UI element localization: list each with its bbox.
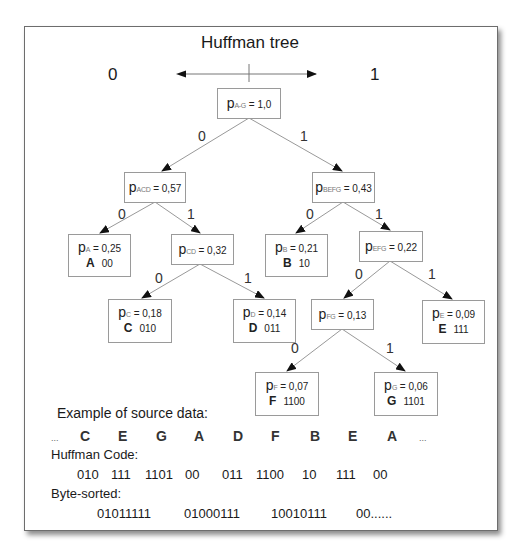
node-g: pG = 0,06 G1101 xyxy=(374,372,438,416)
edge-label-efg-0: 0 xyxy=(355,266,363,282)
example-label: Example of source data: xyxy=(57,405,208,421)
direction-right-label: 1 xyxy=(370,65,379,85)
node-fg: pFG = 0,13 xyxy=(311,299,374,330)
code-value: 1101 xyxy=(145,467,173,482)
byte-sorted-label: Byte-sorted: xyxy=(51,486,121,501)
edge-label-root-0: 0 xyxy=(198,128,206,144)
sequence-ellipsis-start: ... xyxy=(51,433,59,443)
edge-label-acd-0: 0 xyxy=(118,206,126,222)
node-acd: pACD = 0,57 xyxy=(124,172,186,203)
sequence-symbol: E xyxy=(348,428,357,444)
edge-label-befg-1: 1 xyxy=(375,206,383,222)
edge-label-root-1: 1 xyxy=(300,128,308,144)
node-efg: pEFG = 0,22 xyxy=(359,231,423,262)
node-befg: pBEFG = 0,43 xyxy=(312,172,375,203)
sequence-symbol: B xyxy=(310,428,320,444)
byte-value: 00...... xyxy=(356,506,392,521)
sequence-symbol: E xyxy=(118,428,127,444)
sequence-symbol: D xyxy=(233,428,243,444)
code-value: 10 xyxy=(302,467,316,482)
sequence-symbol: F xyxy=(271,428,280,444)
byte-value: 10010111 xyxy=(271,506,327,521)
byte-value: 01000111 xyxy=(184,506,240,521)
code-value: 010 xyxy=(77,467,99,482)
edge-label-fg-0: 0 xyxy=(291,340,299,356)
code-value: 111 xyxy=(111,467,131,482)
diagram-title: Huffman tree xyxy=(0,33,526,53)
code-value: 111 xyxy=(336,467,356,482)
node-e: pE = 0,09 E111 xyxy=(422,300,485,344)
edge-label-efg-1: 1 xyxy=(428,266,436,282)
node-root: pA-G = 1,0 xyxy=(217,88,281,119)
node-d: pD = 0,14 D011 xyxy=(233,299,296,343)
direction-left-label: 0 xyxy=(108,65,117,85)
node-a: pA = 0,25 A00 xyxy=(68,234,131,277)
node-cd: pCD = 0,32 xyxy=(171,234,234,265)
huffman-code-label: Huffman Code: xyxy=(51,447,138,462)
code-value: 1100 xyxy=(256,467,284,482)
code-value: 00 xyxy=(185,467,199,482)
code-value: 00 xyxy=(373,467,387,482)
sequence-ellipsis-end: ... xyxy=(419,433,427,443)
sequence-symbol: C xyxy=(80,428,90,444)
edge-label-befg-0: 0 xyxy=(306,206,314,222)
sequence-symbol: G xyxy=(156,428,167,444)
code-value: 011 xyxy=(222,467,243,482)
edge-label-cd-1: 1 xyxy=(244,270,252,286)
byte-value: 01011111 xyxy=(97,506,151,521)
sequence-symbol: A xyxy=(194,428,204,444)
edge-label-acd-1: 1 xyxy=(187,206,195,222)
node-b: pB = 0,21 B10 xyxy=(265,234,328,277)
sequence-symbol: A xyxy=(387,428,397,444)
edge-label-fg-1: 1 xyxy=(386,340,394,356)
node-c: pC = 0,18 C010 xyxy=(108,299,172,343)
node-f: pF = 0,07 F1100 xyxy=(255,372,319,416)
edge-label-cd-0: 0 xyxy=(155,270,163,286)
